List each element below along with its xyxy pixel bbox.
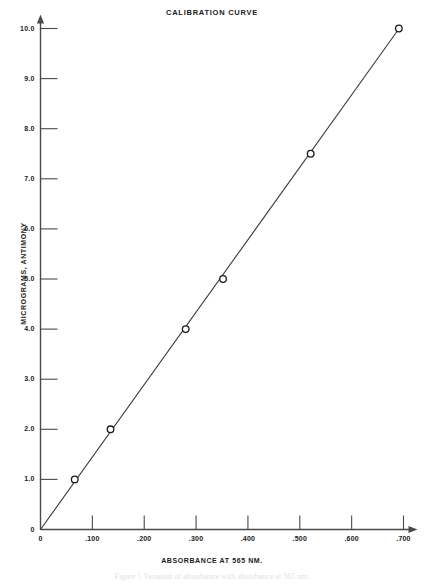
figure-page: CALIBRATION CURVE 01.02.03.04.05.06.07.0… — [0, 0, 424, 584]
y-tick-label: 10.0 — [5, 25, 35, 32]
y-tick-label: 2.0 — [5, 425, 35, 432]
y-axis-title: MICROGRAMS, ANTIMONY — [20, 204, 27, 344]
x-axis-title: ABSORBANCE AT 565 NM. — [0, 557, 424, 564]
calibration-curve-plot — [0, 0, 424, 584]
x-tick-label: .500 — [280, 535, 320, 542]
y-tick-label: 8.0 — [5, 125, 35, 132]
data-point — [71, 476, 78, 483]
y-tick-label: 1.0 — [5, 475, 35, 482]
x-tick-label: .100 — [72, 535, 112, 542]
x-tick-label: .700 — [384, 535, 424, 542]
data-point — [182, 326, 189, 333]
y-tick-label: 9.0 — [5, 75, 35, 82]
y-tick-label: 3.0 — [5, 375, 35, 382]
y-tick-label: 0 — [5, 526, 35, 533]
data-point — [107, 426, 114, 433]
data-point — [307, 150, 314, 157]
x-tick-label: .400 — [228, 535, 268, 542]
data-series-group — [41, 25, 403, 529]
x-tick-label: .200 — [124, 535, 164, 542]
y-tick-label: 7.0 — [5, 175, 35, 182]
data-point — [396, 25, 403, 32]
figure-caption: Figure 1 Variation of absorbance with ab… — [0, 572, 424, 581]
x-tick-label: 0 — [21, 535, 61, 542]
data-point — [220, 276, 227, 283]
x-tick-label: .600 — [332, 535, 372, 542]
x-tick-label: .300 — [176, 535, 216, 542]
